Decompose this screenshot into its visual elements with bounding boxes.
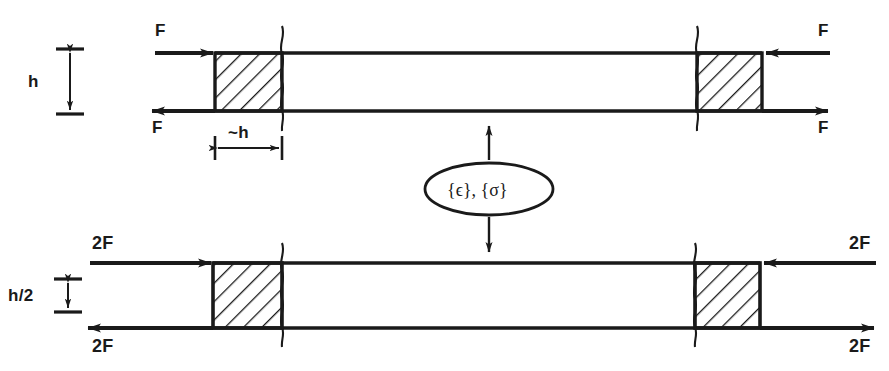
top-left-grip — [215, 53, 282, 111]
top-force-label-upper-left: F — [155, 22, 166, 39]
bottom-force-label-upper-right: 2F — [849, 234, 871, 252]
diagram-canvas — [0, 0, 889, 371]
bottom-height-label: h/2 — [8, 287, 33, 304]
bottom-force-label-lower-right: 2F — [849, 337, 871, 355]
bottom-right-grip — [695, 263, 760, 328]
top-force-label-upper-right: F — [818, 22, 829, 39]
grip-width-label: ~h — [228, 124, 249, 141]
bottom-specimen-group — [54, 243, 876, 347]
top-height-dimension — [56, 49, 84, 114]
top-height-label: h — [28, 73, 39, 90]
bottom-force-label-lower-left: 2F — [92, 337, 114, 355]
strain-stress-label: {ϵ}, {σ} — [447, 181, 508, 199]
bottom-specimen-body — [213, 263, 760, 328]
top-specimen-group — [56, 26, 830, 160]
bottom-height-dimension — [54, 279, 82, 312]
top-force-label-lower-right: F — [818, 119, 829, 136]
specimen-scaling-diagram: h F F F F ~h {ϵ}, {σ} h/2 2F 2F 2F 2F — [0, 0, 889, 371]
top-force-label-lower-left: F — [152, 119, 163, 136]
top-right-grip — [697, 53, 762, 111]
bottom-left-grip — [213, 263, 282, 328]
top-specimen-body — [215, 53, 762, 111]
bottom-force-label-upper-left: 2F — [92, 234, 114, 252]
